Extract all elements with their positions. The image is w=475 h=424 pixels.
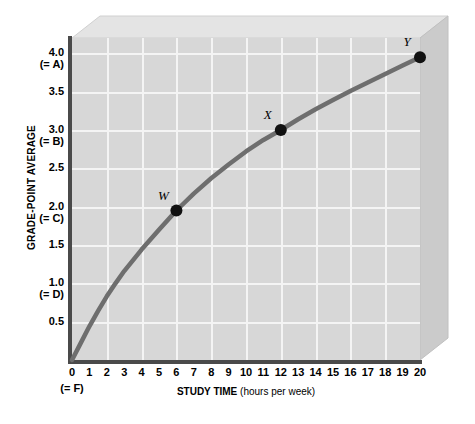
x-tick-value: 1 <box>86 366 92 378</box>
x-tick-value: 4 <box>139 366 145 378</box>
gridline-horizontal <box>72 53 420 55</box>
x-tick-value: 17 <box>362 366 374 378</box>
x-axis-title-main: STUDY TIME <box>177 386 237 397</box>
y-tick-label: 4.0(= A) <box>0 46 64 70</box>
gridline-vertical <box>176 38 178 360</box>
gpa-study-time-chart: 0.51.0(= D)1.52.0(= C)2.53.0(= B)3.54.0(… <box>0 0 475 424</box>
gridline-vertical <box>142 38 144 360</box>
x-tick-value: 14 <box>309 366 321 378</box>
y-tick-label: 0.5 <box>0 315 64 327</box>
y-tick-value: 1.0 <box>49 276 64 288</box>
x-tick-value: 7 <box>191 366 197 378</box>
gridline-vertical <box>281 38 283 360</box>
y-axis-line <box>68 36 72 362</box>
gridline-horizontal <box>72 92 420 94</box>
y-tick-value: 2.0 <box>49 200 64 212</box>
x-axis-line <box>68 360 422 364</box>
y-tick-grade: (= D) <box>0 288 64 300</box>
x-tick-value: 16 <box>344 366 356 378</box>
y-axis-title: GRADE-POINT AVERAGE <box>26 113 37 263</box>
y-tick-value: 2.5 <box>49 161 64 173</box>
x-tick-value: 2 <box>104 366 110 378</box>
y-tick-label: 1.0(= D) <box>0 276 64 300</box>
y-tick-value: 3.5 <box>49 85 64 97</box>
y-tick-value: 4.0 <box>49 46 64 58</box>
x-axis-tick-labels: 0(= F)1234567891011121314151617181920 <box>0 366 475 384</box>
x-tick-value: 12 <box>275 366 287 378</box>
gridline-horizontal <box>72 207 420 209</box>
slab-right-face <box>420 16 448 360</box>
x-tick-value: 9 <box>226 366 232 378</box>
y-tick-value: 0.5 <box>49 315 64 327</box>
gridline-horizontal <box>72 245 420 247</box>
x-tick-value: 15 <box>327 366 339 378</box>
gridline-vertical <box>350 38 352 360</box>
x-axis-title-units: (hours per week) <box>237 386 315 397</box>
y-tick-label: 3.5 <box>0 85 64 97</box>
x-tick-value: 8 <box>208 366 214 378</box>
y-tick-value: 1.5 <box>49 238 64 250</box>
x-tick-value: 13 <box>292 366 304 378</box>
gridline-vertical <box>107 38 109 360</box>
x-tick-value: 3 <box>121 366 127 378</box>
x-axis-title: STUDY TIME (hours per week) <box>72 386 420 397</box>
gridline-horizontal <box>72 130 420 132</box>
x-tick-value: 10 <box>240 366 252 378</box>
x-tick-value: 18 <box>379 366 391 378</box>
gridline-horizontal <box>72 168 420 170</box>
gridline-horizontal <box>72 322 420 324</box>
plot-area <box>72 38 420 360</box>
gridline-vertical <box>211 38 213 360</box>
x-tick-value: 6 <box>173 366 179 378</box>
x-tick-value: 0 <box>69 366 75 378</box>
gridline-vertical <box>385 38 387 360</box>
gridline-horizontal <box>72 283 420 285</box>
slab-top-face <box>72 16 448 38</box>
x-tick-label: 20 <box>408 366 432 378</box>
x-tick-value: 11 <box>258 366 270 378</box>
y-tick-grade: (= A) <box>0 58 64 70</box>
gridline-vertical <box>246 38 248 360</box>
x-tick-value: 20 <box>414 366 426 378</box>
x-tick-value: 5 <box>156 366 162 378</box>
x-tick-value: 19 <box>396 366 408 378</box>
gridline-vertical <box>316 38 318 360</box>
y-tick-value: 3.0 <box>49 123 64 135</box>
